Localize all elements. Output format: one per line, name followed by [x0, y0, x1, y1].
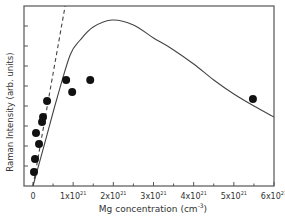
data-point [62, 76, 70, 84]
axis-ticks [24, 26, 274, 186]
data-point [32, 129, 40, 137]
series-points [30, 76, 257, 176]
x-tick-labels: 01x10212x10213x10214x10215x10216x1021 [30, 190, 285, 201]
x-axis-label: Mg concentration (cm-3) [99, 202, 207, 214]
data-point [35, 140, 43, 148]
data-point [31, 155, 39, 163]
x-tick-label: 2x1021 [100, 190, 126, 201]
plot-area: 01x10212x10213x10214x10215x10216x1021 Mg… [0, 0, 285, 220]
x-tick-label: 0 [30, 192, 35, 201]
x-tick-label: 1x1021 [60, 190, 86, 201]
x-tick-label: 3x1021 [140, 190, 166, 201]
data-point [68, 88, 76, 96]
data-point [86, 76, 94, 84]
x-tick-label: 4x1021 [180, 190, 206, 201]
data-point [43, 97, 51, 105]
data-point [39, 113, 47, 121]
x-tick-label: 6x1021 [261, 190, 285, 201]
model-fit-line [33, 20, 274, 186]
y-axis-label: Raman Intensity (arb. units) [5, 52, 15, 171]
data-point [30, 168, 38, 176]
series-lines [33, 6, 274, 186]
chart: 01x10212x10213x10214x10215x10216x1021 Mg… [0, 0, 285, 220]
x-tick-label: 5x1021 [221, 190, 247, 201]
data-point [249, 95, 257, 103]
